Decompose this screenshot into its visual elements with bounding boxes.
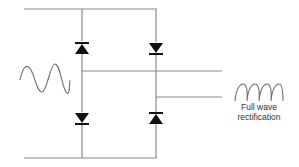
sine-wave-icon <box>20 64 70 94</box>
output-label-line1: Full wave <box>227 102 291 112</box>
bridge-rectifier-diagram <box>0 0 299 167</box>
rectified-wave-icon <box>235 84 283 101</box>
diode-bottom-right-icon <box>148 112 164 124</box>
diode-top-right-icon <box>148 42 164 54</box>
diode-bottom-left-icon <box>74 112 90 124</box>
output-label-line2: rectification <box>227 112 291 122</box>
output-label: Full wave rectification <box>227 102 291 122</box>
diode-top-left-icon <box>74 41 90 54</box>
